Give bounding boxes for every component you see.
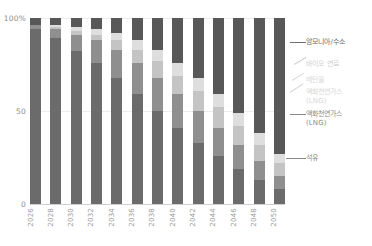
- bar-segment: [111, 18, 122, 33]
- bar-segment: [91, 18, 102, 29]
- bar-segment: [274, 163, 285, 176]
- bar-column: [30, 18, 41, 204]
- legend-label: 석유: [306, 154, 318, 163]
- x-tick: 2030: [71, 206, 82, 246]
- bar-segment: [152, 61, 163, 78]
- stacked-bar-chart: 100% 50 0 202620282030203220342036203820…: [0, 0, 372, 246]
- legend-leader-line: [290, 42, 306, 43]
- bar-segment: [50, 18, 61, 25]
- x-tick-label: 2034: [108, 208, 116, 227]
- bar-segment: [71, 35, 82, 52]
- bar-column: [111, 18, 122, 204]
- bar-segment: [91, 63, 102, 204]
- bar-column: [71, 18, 82, 204]
- y-tick-label: 100%: [4, 14, 26, 23]
- x-tick-label: 2030: [67, 208, 75, 227]
- plot-area: [30, 18, 285, 204]
- bar-column: [152, 18, 163, 204]
- x-tick-label: 2026: [26, 208, 34, 227]
- bar-segment: [254, 133, 265, 144]
- legend-leader-line: [292, 73, 304, 81]
- x-axis-line: [30, 204, 285, 205]
- x-tick: 2048: [254, 206, 265, 246]
- bar-segment: [111, 33, 122, 40]
- legend-leader-line: [290, 114, 306, 115]
- bar-segment: [233, 169, 244, 204]
- bar-segment: [254, 161, 265, 180]
- x-axis: 2026202820302032203420362038204020422044…: [30, 206, 285, 246]
- bar-segment: [152, 78, 163, 111]
- bar-segment: [274, 154, 285, 163]
- bar-segment: [193, 91, 204, 111]
- bar-segment: [193, 111, 204, 143]
- bar-segment: [172, 63, 183, 76]
- bar-column: [213, 18, 224, 204]
- bar-group: [30, 18, 285, 204]
- bar-segment: [213, 156, 224, 204]
- bar-segment: [193, 143, 204, 204]
- bar-segment: [254, 18, 265, 133]
- bar-segment: [71, 51, 82, 204]
- bar-column: [233, 18, 244, 204]
- x-tick: 2046: [233, 206, 244, 246]
- y-tick-label: 50: [16, 107, 26, 116]
- bar-segment: [274, 176, 285, 189]
- legend-leader-line: [294, 57, 307, 65]
- bar-column: [254, 18, 265, 204]
- bar-column: [132, 18, 143, 204]
- x-tick-label: 2040: [168, 208, 176, 227]
- legend-label: 메탄올: [306, 76, 324, 85]
- x-tick-label: 2032: [87, 208, 95, 227]
- bar-segment: [254, 145, 265, 162]
- legend-label: 암모니아/수소: [306, 38, 345, 47]
- x-tick-label: 2048: [250, 208, 258, 227]
- bar-segment: [233, 18, 244, 113]
- bar-segment: [152, 50, 163, 61]
- bar-segment: [274, 18, 285, 154]
- y-axis: 100% 50 0: [0, 18, 30, 204]
- bar-segment: [254, 180, 265, 204]
- bar-segment: [111, 40, 122, 49]
- bar-segment: [132, 50, 143, 63]
- bar-segment: [172, 76, 183, 95]
- bar-segment: [132, 63, 143, 95]
- bar-segment: [71, 18, 82, 27]
- bar-segment: [213, 107, 224, 127]
- chart-legend: 암모니아/수소바이오 연료메탄올액화천연가스 (LNG)액화천연가스 (LNG)…: [286, 0, 372, 246]
- bar-column: [50, 18, 61, 204]
- x-tick: 2040: [172, 206, 183, 246]
- x-tick: 2034: [111, 206, 122, 246]
- x-tick-label: 2028: [47, 208, 55, 227]
- legend-leader-line: [286, 158, 306, 159]
- x-tick: 2044: [213, 206, 224, 246]
- bar-segment: [132, 40, 143, 49]
- bar-segment: [111, 78, 122, 204]
- bar-segment: [111, 50, 122, 78]
- x-tick-label: 2044: [209, 208, 217, 227]
- x-tick: 2042: [193, 206, 204, 246]
- legend-label: 액화천연가스 (LNG): [306, 110, 343, 128]
- x-tick-label: 2042: [189, 208, 197, 227]
- legend-label: 바이오 연료: [306, 60, 339, 69]
- x-tick: 2038: [152, 206, 163, 246]
- bar-column: [91, 18, 102, 204]
- bar-segment: [152, 111, 163, 204]
- bar-segment: [193, 78, 204, 91]
- bar-segment: [193, 18, 204, 78]
- bar-segment: [274, 189, 285, 204]
- legend-label: 액화천연가스 (LNG): [306, 88, 343, 106]
- bar-column: [193, 18, 204, 204]
- bar-segment: [132, 18, 143, 40]
- bar-segment: [233, 126, 244, 145]
- bar-column: [274, 18, 285, 204]
- bar-segment: [152, 18, 163, 50]
- bar-segment: [50, 29, 61, 38]
- bar-segment: [30, 29, 41, 204]
- bar-segment: [91, 40, 102, 62]
- bar-column: [172, 18, 183, 204]
- x-tick: 2050: [274, 206, 285, 246]
- bar-segment: [172, 18, 183, 63]
- x-tick: 2036: [132, 206, 143, 246]
- bar-segment: [213, 18, 224, 94]
- x-tick: 2032: [91, 206, 102, 246]
